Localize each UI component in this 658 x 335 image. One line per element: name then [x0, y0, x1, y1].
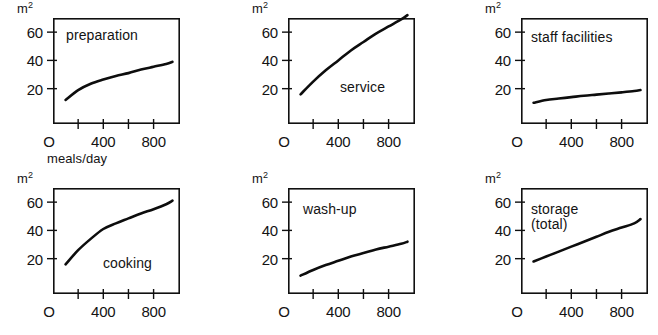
- y-tick-label: 20: [246, 82, 278, 97]
- chart-panel-storage: m2604020O400800storage (total): [521, 188, 648, 294]
- x-tick-label: 800: [371, 134, 407, 149]
- chart-panel-wash-up: m2604020O400800wash-up: [288, 188, 415, 294]
- y-tick-label: 40: [479, 223, 511, 238]
- y-tick-label: 40: [246, 223, 278, 238]
- plot-area: [288, 18, 415, 124]
- y-tick-label: 60: [246, 25, 278, 40]
- data-curve: [301, 242, 408, 276]
- y-axis-unit-label: m2: [252, 172, 268, 185]
- y-tick-label: 60: [479, 25, 511, 40]
- y-axis-unit-exponent: 2: [28, 170, 33, 180]
- y-axis-unit-base: m: [485, 171, 496, 186]
- plot-frame: [289, 19, 414, 123]
- y-tick-label: 20: [11, 82, 43, 97]
- y-tick-label: 40: [479, 53, 511, 68]
- x-tick-label: O: [266, 134, 302, 149]
- panel-title: staff facilities: [531, 30, 613, 45]
- y-axis-unit-label: m2: [485, 2, 501, 15]
- y-axis-unit-label: m2: [485, 172, 501, 185]
- x-tick-label: O: [266, 304, 302, 319]
- x-tick-label: O: [31, 304, 67, 319]
- x-tick-label: 400: [320, 304, 356, 319]
- data-curve: [66, 62, 173, 100]
- y-axis-unit-exponent: 2: [263, 0, 268, 10]
- y-axis-unit-exponent: 2: [496, 0, 501, 10]
- x-tick-label: 800: [604, 134, 640, 149]
- y-axis-unit-base: m: [17, 171, 28, 186]
- y-axis-unit-base: m: [252, 1, 263, 16]
- plot-frame: [54, 189, 179, 293]
- y-tick-label: 20: [246, 252, 278, 267]
- y-tick-label: 40: [246, 53, 278, 68]
- x-tick-label: 800: [136, 304, 172, 319]
- y-tick-label: 60: [246, 195, 278, 210]
- x-tick-label: 800: [604, 304, 640, 319]
- y-tick-label: 20: [11, 252, 43, 267]
- y-tick-label: 40: [11, 223, 43, 238]
- x-tick-label: O: [499, 134, 535, 149]
- x-axis-caption: meals/day: [47, 152, 107, 165]
- y-tick-label: 20: [479, 252, 511, 267]
- x-tick-label: 400: [553, 304, 589, 319]
- panel-title: preparation: [66, 28, 138, 43]
- charts-figure: m2604020O400800preparationmeals/daym2604…: [0, 0, 658, 335]
- x-tick-label: 800: [371, 304, 407, 319]
- y-tick-label: 60: [479, 195, 511, 210]
- x-tick-label: 800: [136, 134, 172, 149]
- chart-panel-preparation: m2604020O400800preparationmeals/day: [53, 18, 180, 124]
- x-tick-label: 400: [85, 304, 121, 319]
- y-tick-label: 20: [479, 82, 511, 97]
- y-axis-unit-base: m: [485, 1, 496, 16]
- x-tick-label: 400: [85, 134, 121, 149]
- x-tick-label: 400: [553, 134, 589, 149]
- x-tick-label: O: [31, 134, 67, 149]
- y-axis-unit-label: m2: [17, 2, 33, 15]
- y-axis-unit-base: m: [17, 1, 28, 16]
- chart-panel-staff-facilities: m2604020O400800staff facilities: [521, 18, 648, 124]
- y-tick-label: 60: [11, 195, 43, 210]
- x-tick-label: 400: [320, 134, 356, 149]
- panel-title: storage (total): [531, 202, 578, 232]
- y-axis-unit-exponent: 2: [496, 170, 501, 180]
- y-axis-unit-base: m: [252, 171, 263, 186]
- panel-title: wash-up: [303, 202, 357, 217]
- panel-title: service: [340, 80, 385, 95]
- data-curve: [534, 90, 641, 103]
- y-tick-label: 40: [11, 53, 43, 68]
- plot-area: [53, 188, 180, 294]
- panel-title: cooking: [103, 256, 152, 271]
- y-axis-unit-exponent: 2: [28, 0, 33, 10]
- chart-panel-service: m2604020O400800service: [288, 18, 415, 124]
- y-axis-unit-label: m2: [252, 2, 268, 15]
- y-axis-unit-label: m2: [17, 172, 33, 185]
- y-tick-label: 60: [11, 25, 43, 40]
- chart-panel-cooking: m2604020O400800cooking: [53, 188, 180, 294]
- x-tick-label: O: [499, 304, 535, 319]
- y-axis-unit-exponent: 2: [263, 170, 268, 180]
